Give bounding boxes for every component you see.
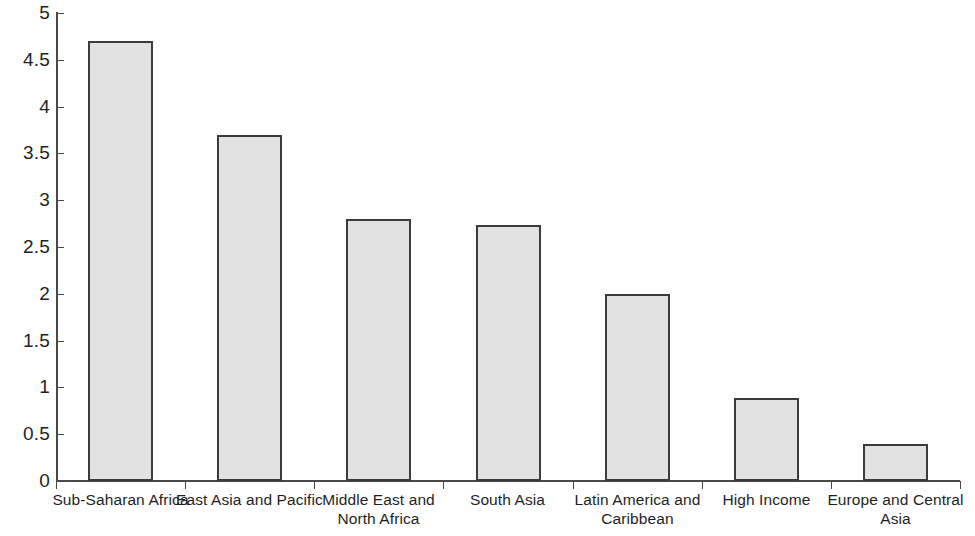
x-axis-tick bbox=[573, 481, 574, 489]
y-axis-tick-label: 2 bbox=[6, 284, 50, 303]
y-axis-tick bbox=[57, 13, 64, 14]
y-axis-tick bbox=[57, 341, 64, 342]
y-axis-tick bbox=[57, 294, 64, 295]
bar bbox=[476, 225, 541, 481]
y-axis-tick-label: 0.5 bbox=[6, 424, 50, 443]
y-axis-tick-label: 1.5 bbox=[6, 331, 50, 350]
bar bbox=[734, 398, 799, 481]
y-axis-tick-label: 4 bbox=[6, 97, 50, 116]
x-axis-tick bbox=[185, 481, 186, 489]
bar bbox=[863, 444, 928, 481]
y-axis-tick bbox=[57, 200, 64, 201]
y-axis-tick bbox=[57, 107, 64, 108]
bar bbox=[88, 41, 153, 481]
y-axis-tick bbox=[57, 153, 64, 154]
y-axis-labels: 00.511.522.533.544.55 bbox=[0, 0, 50, 536]
y-axis-tick bbox=[57, 247, 64, 248]
y-axis-tick-label: 4.5 bbox=[6, 50, 50, 69]
y-axis-tick bbox=[57, 481, 64, 482]
bar bbox=[217, 135, 282, 481]
y-axis-tick bbox=[57, 434, 64, 435]
y-axis-tick bbox=[57, 60, 64, 61]
x-axis-tick bbox=[831, 481, 832, 489]
y-axis-tick-label: 5 bbox=[6, 3, 50, 22]
bar-chart: 00.511.522.533.544.55 Sub-Saharan Africa… bbox=[0, 0, 975, 536]
x-axis-tick bbox=[56, 481, 57, 489]
y-axis-tick-label: 0 bbox=[6, 471, 50, 490]
y-axis-tick bbox=[57, 387, 64, 388]
x-axis-tick bbox=[443, 481, 444, 489]
y-axis-tick-label: 3 bbox=[6, 190, 50, 209]
y-axis-tick-label: 2.5 bbox=[6, 237, 50, 256]
y-axis-tick-label: 1 bbox=[6, 377, 50, 396]
y-axis-tick-label: 3.5 bbox=[6, 143, 50, 162]
x-axis-category-label: Europe and Central Asia bbox=[818, 490, 973, 528]
x-axis-tick bbox=[314, 481, 315, 489]
bar bbox=[346, 219, 411, 481]
x-axis-tick bbox=[960, 481, 961, 489]
x-axis-tick bbox=[702, 481, 703, 489]
bar bbox=[605, 294, 670, 481]
